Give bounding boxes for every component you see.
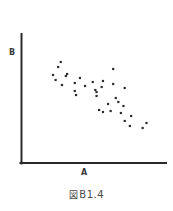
data-point bbox=[142, 127, 144, 129]
data-point bbox=[101, 86, 103, 88]
data-point-group bbox=[52, 61, 148, 129]
data-point bbox=[79, 77, 81, 79]
data-point bbox=[120, 112, 122, 114]
data-point bbox=[52, 74, 54, 76]
figure-container: B A 図B1.4 bbox=[0, 0, 173, 211]
data-point bbox=[92, 81, 94, 83]
data-point bbox=[130, 115, 132, 117]
figure-caption-symbol: 図 bbox=[69, 190, 80, 200]
data-point bbox=[112, 68, 114, 70]
data-point bbox=[84, 85, 86, 87]
data-point bbox=[74, 82, 76, 84]
x-axis-label: A bbox=[81, 169, 87, 177]
data-point bbox=[75, 94, 77, 96]
data-point bbox=[129, 125, 131, 127]
data-point bbox=[122, 105, 124, 107]
data-point bbox=[112, 83, 114, 85]
data-point bbox=[117, 101, 119, 103]
y-axis-label: B bbox=[9, 49, 15, 57]
data-point bbox=[94, 89, 96, 91]
data-point bbox=[102, 80, 104, 82]
data-point bbox=[66, 73, 68, 75]
figure-caption-number: B1.4 bbox=[79, 189, 104, 200]
data-point bbox=[95, 91, 97, 93]
data-point bbox=[110, 110, 112, 112]
scatter-plot-svg bbox=[0, 0, 173, 185]
figure-caption: 図B1.4 bbox=[0, 189, 173, 201]
data-point bbox=[74, 90, 76, 92]
data-point bbox=[98, 109, 100, 111]
data-point bbox=[115, 97, 117, 99]
data-point bbox=[95, 95, 97, 97]
scatter-plot-area: B A bbox=[0, 0, 173, 185]
data-point bbox=[102, 111, 104, 113]
data-point bbox=[124, 120, 126, 122]
data-point bbox=[124, 87, 126, 89]
data-point bbox=[145, 122, 147, 124]
data-point bbox=[107, 103, 109, 105]
data-point bbox=[61, 84, 63, 86]
data-point bbox=[55, 79, 57, 81]
data-point bbox=[57, 66, 59, 68]
data-point bbox=[65, 75, 67, 77]
data-point bbox=[60, 61, 62, 63]
